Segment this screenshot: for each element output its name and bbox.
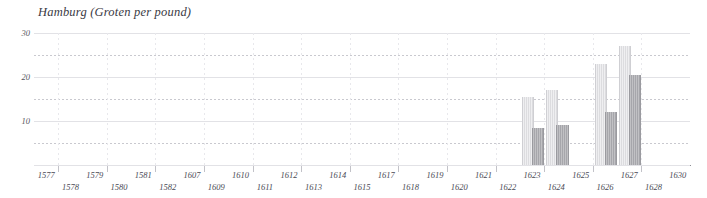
x-tick-label-1625: 1625: [572, 170, 589, 180]
bar-dark-1626: [605, 112, 617, 165]
x-tick-label-1582: 1582: [159, 182, 176, 192]
x-tick-label-1580: 1580: [111, 182, 128, 192]
chart-title: Hamburg (Groten per pound): [38, 5, 191, 20]
x-tick-label-1613: 1613: [305, 182, 322, 192]
x-tick-label-1617: 1617: [378, 170, 395, 180]
x-tick-label-1607: 1607: [183, 170, 200, 180]
x-tick-label-1615: 1615: [354, 182, 371, 192]
bar-dark-1623: [532, 128, 544, 165]
x-tick-label-1621: 1621: [475, 170, 492, 180]
x-tick-label-1612: 1612: [281, 170, 298, 180]
bars-layer: [34, 33, 690, 165]
x-tick-label-1581: 1581: [135, 170, 152, 180]
x-tick-label-1627: 1627: [621, 170, 638, 180]
y-tick-label-30: 30: [22, 28, 31, 38]
x-tick-label-1610: 1610: [232, 170, 249, 180]
bar-dark-1627: [629, 75, 641, 165]
x-tick-label-1628: 1628: [645, 182, 662, 192]
y-tick-label-20: 20: [22, 72, 31, 82]
x-tick-label-1611: 1611: [257, 182, 273, 192]
x-tick-label-1624: 1624: [548, 182, 565, 192]
bar-dark-1624: [556, 125, 568, 165]
plot-area: [34, 33, 690, 165]
x-tick-label-1579: 1579: [86, 170, 103, 180]
x-tick-label-1623: 1623: [524, 170, 541, 180]
x-tick-label-1619: 1619: [426, 170, 443, 180]
x-tick-label-1614: 1614: [329, 170, 346, 180]
x-tick-label-1618: 1618: [402, 182, 419, 192]
x-tick-labels: 1577157815791580158115821607160916101611…: [0, 166, 707, 198]
x-tick-label-1577: 1577: [38, 170, 55, 180]
x-tick-label-1578: 1578: [62, 182, 79, 192]
x-tick-label-1626: 1626: [596, 182, 613, 192]
x-tick-label-1630: 1630: [669, 170, 686, 180]
x-tick-label-1609: 1609: [208, 182, 225, 192]
y-tick-label-10: 10: [22, 116, 31, 126]
chart-root: Hamburg (Groten per pound) 102030 157715…: [0, 0, 707, 198]
x-tick-label-1622: 1622: [499, 182, 516, 192]
x-tick-label-1620: 1620: [451, 182, 468, 192]
